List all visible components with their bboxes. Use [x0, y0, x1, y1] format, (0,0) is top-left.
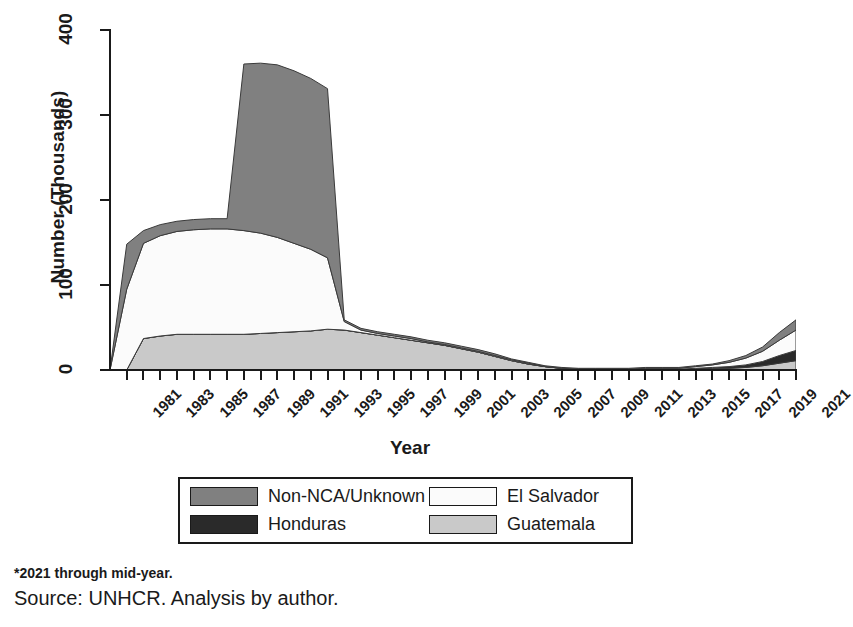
x-tick-label: 1995 — [383, 385, 419, 421]
x-tick-mark — [310, 371, 312, 380]
y-tick-label-200: 200 — [55, 170, 77, 228]
x-tick-mark — [711, 371, 713, 380]
x-tick-mark — [343, 371, 345, 380]
x-tick-mark — [795, 371, 797, 380]
x-tick-label: 2007 — [584, 385, 620, 421]
x-tick-mark — [728, 371, 730, 380]
legend-label-guatemala: Guatemala — [507, 514, 595, 535]
x-tick-label: 2009 — [617, 385, 653, 421]
x-tick-mark — [410, 371, 412, 380]
x-tick-label: 1991 — [316, 385, 352, 421]
x-tick-mark — [276, 371, 278, 380]
x-tick-mark — [460, 371, 462, 380]
x-tick-mark — [661, 371, 663, 380]
x-tick-label: 2013 — [684, 385, 720, 421]
x-tick-label: 1983 — [182, 385, 218, 421]
legend-swatch-honduras — [190, 515, 258, 534]
legend-item-el-salvador: El Salvador — [425, 486, 625, 507]
x-tick-label: 2021 — [818, 385, 853, 421]
y-tick-mark — [100, 284, 109, 286]
legend-swatch-guatemala — [429, 515, 497, 534]
y-tick-label-300: 300 — [55, 85, 77, 143]
x-tick-mark — [511, 371, 513, 380]
x-tick-mark — [561, 371, 563, 380]
x-axis-title: Year — [0, 437, 820, 459]
x-tick-mark — [393, 371, 395, 380]
y-axis-line — [109, 29, 111, 371]
x-tick-mark — [594, 371, 596, 380]
x-tick-mark — [778, 371, 780, 380]
legend-swatch-non-nca — [190, 487, 258, 506]
x-tick-mark — [327, 371, 329, 380]
area-series-guatemala — [110, 329, 796, 370]
x-tick-mark — [644, 371, 646, 380]
x-tick-mark — [360, 371, 362, 380]
stacked-area-svg — [110, 30, 796, 370]
y-tick-label-0: 0 — [55, 340, 77, 398]
x-tick-label: 1989 — [282, 385, 318, 421]
x-tick-mark — [577, 371, 579, 380]
x-tick-mark — [243, 371, 245, 380]
x-tick-mark — [193, 371, 195, 380]
x-tick-label: 2005 — [550, 385, 586, 421]
x-tick-mark — [678, 371, 680, 380]
x-tick-mark — [695, 371, 697, 380]
footnote-text: *2021 through mid-year. — [14, 565, 173, 581]
x-tick-label: 1993 — [349, 385, 385, 421]
plot-area — [110, 30, 796, 370]
legend-item-non-nca: Non-NCA/Unknown — [186, 486, 425, 507]
y-tick-label-100: 100 — [55, 255, 77, 313]
x-tick-mark — [611, 371, 613, 380]
x-tick-mark — [628, 371, 630, 380]
x-tick-label: 1985 — [215, 385, 251, 421]
y-tick-mark — [100, 114, 109, 116]
x-tick-mark — [176, 371, 178, 380]
legend-swatch-el-salvador — [429, 487, 497, 506]
x-tick-mark — [159, 371, 161, 380]
x-tick-label: 1981 — [148, 385, 184, 421]
x-tick-label: 1987 — [249, 385, 285, 421]
x-tick-mark — [209, 371, 211, 380]
x-tick-mark — [142, 371, 144, 380]
x-tick-label: 2017 — [751, 385, 787, 421]
x-tick-label: 1997 — [416, 385, 452, 421]
chart-legend: Non-NCA/Unknown El Salvador Honduras Gua… — [178, 477, 633, 544]
x-tick-label: 2019 — [784, 385, 820, 421]
x-tick-mark — [377, 371, 379, 380]
legend-item-honduras: Honduras — [186, 514, 425, 535]
legend-label-honduras: Honduras — [268, 514, 346, 535]
x-tick-label: 2015 — [717, 385, 753, 421]
x-tick-mark — [226, 371, 228, 380]
x-tick-mark — [427, 371, 429, 380]
x-tick-mark — [527, 371, 529, 380]
x-tick-mark — [126, 371, 128, 380]
x-tick-label: 2011 — [650, 385, 685, 420]
source-text: Source: UNHCR. Analysis by author. — [14, 587, 339, 610]
x-tick-mark — [745, 371, 747, 380]
x-tick-label: 2001 — [483, 385, 519, 421]
y-tick-mark — [100, 369, 109, 371]
y-tick-mark — [100, 199, 109, 201]
legend-label-el-salvador: El Salvador — [507, 486, 599, 507]
y-tick-mark — [100, 29, 109, 31]
x-tick-mark — [260, 371, 262, 380]
x-tick-mark — [293, 371, 295, 380]
legend-label-non-nca: Non-NCA/Unknown — [268, 486, 425, 507]
x-tick-mark — [477, 371, 479, 380]
x-tick-mark — [494, 371, 496, 380]
x-tick-mark — [762, 371, 764, 380]
legend-item-guatemala: Guatemala — [425, 514, 625, 535]
x-tick-mark — [544, 371, 546, 380]
x-tick-label: 1999 — [450, 385, 486, 421]
x-tick-label: 2003 — [517, 385, 553, 421]
y-tick-label-400: 400 — [55, 0, 77, 58]
x-tick-mark — [444, 371, 446, 380]
